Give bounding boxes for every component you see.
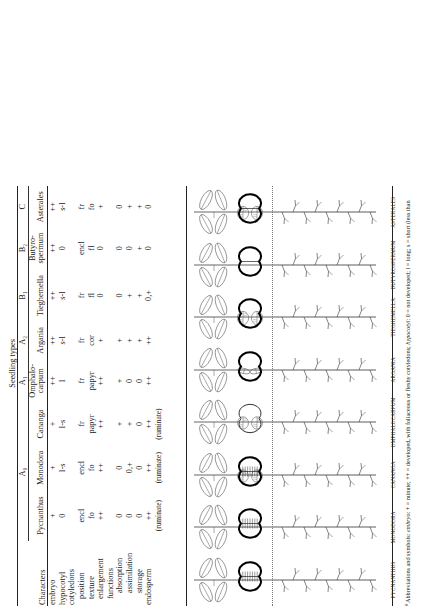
cell-position-cananga: fr xyxy=(77,403,87,445)
cell-ruminate-pycnanthus: (ruminate) xyxy=(154,491,164,541)
cell-enlargement-butyrospermum: 0 xyxy=(96,227,106,268)
plate-caption-tieghemella: TIEGHEMELLA xyxy=(390,291,396,344)
cell-cotyledons-pycnanthus xyxy=(67,491,77,541)
cell-functions-butyrospermum xyxy=(106,227,116,268)
cell-hypocotyl-cananga: l-s xyxy=(58,403,68,445)
genus-asterales: Asterales xyxy=(28,186,47,227)
cell-enlargement-omphalocarpum: ++ xyxy=(96,359,106,404)
cell-ruminate-omphalocarpum xyxy=(154,359,164,404)
cell-embryo-omphalocarpum: ++ xyxy=(47,359,57,404)
seedling-drawing-tieghemella xyxy=(188,291,384,344)
cell-texture-argania: cor xyxy=(86,322,96,358)
cell-position-omphalocarpum: fr xyxy=(77,359,87,404)
character-label-position: position xyxy=(77,541,87,606)
plate-caption-omphalocarpum: OMPHALOCARPUM xyxy=(390,396,396,449)
cell-enlargement-asterales: + xyxy=(96,186,106,227)
seedling-plate: PYCNANTHUS xyxy=(188,554,384,607)
cell-ruminate-butyrospermum xyxy=(154,227,164,268)
cell-endosperm-asterales: 0 xyxy=(144,186,154,227)
cell-functions-tieghemella xyxy=(106,269,116,323)
seedling-drawings-band: PYCNANTHUSMONODORACANANGAOMPHALOCARPUMAR… xyxy=(188,186,396,606)
cell-cotyledons-omphalocarpum xyxy=(67,359,77,404)
plate-caption-pycnanthus: PYCNANTHUS xyxy=(390,554,396,607)
cell-absorption-cananga: + xyxy=(115,403,125,445)
cell-position-tieghemella: fr xyxy=(77,269,87,323)
cell-storage-asterales: + xyxy=(134,186,144,227)
character-row: storage0000++++ xyxy=(134,186,144,606)
genus-omphalocarpum: Omphalo- carpum xyxy=(28,359,47,404)
characters-table-wrapper: Seedling types A₀ A₁ A₂ B₁ B₂ C Characte… xyxy=(8,186,163,606)
character-label-storage: storage xyxy=(134,541,144,606)
cell-embryo-asterales: ++ xyxy=(47,186,57,227)
cell-storage-cananga: 0 xyxy=(134,403,144,445)
plate-band-bottom-rule xyxy=(392,186,393,606)
cell-cotyledons-butyrospermum xyxy=(67,227,77,268)
cell-embryo-pycnanthus: + xyxy=(47,491,57,541)
cell-hypocotyl-asterales: s-l xyxy=(58,186,68,227)
cell-endosperm-tieghemella: 0,+ xyxy=(144,269,154,323)
cell-hypocotyl-omphalocarpum: l xyxy=(58,359,68,404)
cell-functions-asterales xyxy=(106,186,116,227)
character-label-functions: functions xyxy=(106,541,116,606)
character-row: cotyledons xyxy=(67,186,77,606)
cell-storage-monodora: 0 xyxy=(134,445,144,491)
genus-omphalocarpum-line2: carpum xyxy=(36,368,45,393)
character-row: absorption00+++000 xyxy=(115,186,125,606)
cell-endosperm-pycnanthus: ++ xyxy=(144,491,154,541)
cell-cotyledons-asterales xyxy=(67,186,77,227)
seedling-types-header-row: Seedling types xyxy=(8,186,18,606)
plate-caption-monodora: MONODORA xyxy=(390,501,396,554)
genus-monodora: Monodora xyxy=(28,445,47,491)
soil-line xyxy=(272,186,273,606)
character-row: assimilation00,++0++0+ xyxy=(125,186,135,606)
cell-assimilation-pycnanthus: 0 xyxy=(125,491,135,541)
plate-caption-cananga: CANANGA xyxy=(390,449,396,502)
character-label-endosperm: endosperm xyxy=(144,541,154,606)
genus-butyrospermum-line1: Butyro- xyxy=(28,235,37,261)
cell-absorption-argania: + xyxy=(115,322,125,358)
group-code-row: A₀ A₁ A₂ B₁ B₂ C xyxy=(18,186,28,606)
cell-absorption-omphalocarpum: + xyxy=(115,359,125,404)
cell-absorption-monodora: 0 xyxy=(115,445,125,491)
seedling-plate: TIEGHEMELLA xyxy=(188,291,384,344)
character-label-absorption: absorption xyxy=(115,541,125,606)
cell-absorption-tieghemella: 0 xyxy=(115,269,125,323)
cell-assimilation-butyrospermum: 0 xyxy=(125,227,135,268)
plate-caption-argania: ARGANIA xyxy=(390,344,396,397)
character-label-hypocotyl: hypocotyl xyxy=(58,541,68,606)
cell-ruminate-asterales xyxy=(154,186,164,227)
characters-table-body: embryo+++++++++++++hypocotyl0l-sl-sls-ls… xyxy=(47,186,163,606)
cell-ruminate-cananga: (ruminate) xyxy=(154,403,164,445)
seedling-plate: MONODORA xyxy=(188,501,384,554)
character-label-texture: texture xyxy=(86,541,96,606)
seedling-plate: BUTYROSPERMUM xyxy=(188,239,384,292)
character-label xyxy=(154,541,164,606)
seedling-drawing-pycnanthus xyxy=(188,554,384,607)
seedling-types-header: Seedling types xyxy=(8,186,18,541)
cell-functions-pycnanthus xyxy=(106,491,116,541)
genus-pycnanthus: Pycnanthus xyxy=(28,491,47,541)
cell-position-pycnanthus: encl xyxy=(77,491,87,541)
character-label-embryo: embryo xyxy=(47,541,57,606)
rotated-figure-canvas: Seedling types A₀ A₁ A₂ B₁ B₂ C Characte… xyxy=(0,0,427,612)
cell-assimilation-asterales: + xyxy=(125,186,135,227)
cell-storage-butyrospermum: + xyxy=(134,227,144,268)
cell-texture-omphalocarpum: papyr xyxy=(86,359,96,404)
cell-ruminate-tieghemella xyxy=(154,269,164,323)
seedling-drawing-argania xyxy=(188,344,384,397)
seedling-drawing-omphalocarpum xyxy=(188,396,384,449)
genus-butyrospermum: Butyro- spermum xyxy=(28,227,47,268)
cell-storage-pycnanthus: 0 xyxy=(134,491,144,541)
cell-storage-omphalocarpum: 0 xyxy=(134,359,144,404)
genus-tieghemella: Tieghemella xyxy=(28,269,47,323)
cell-cotyledons-cananga xyxy=(67,403,77,445)
seedling-plate: OMPHALOCARPUM xyxy=(188,396,384,449)
cell-embryo-monodora: + xyxy=(47,445,57,491)
cell-hypocotyl-pycnanthus: 0 xyxy=(58,491,68,541)
cell-enlargement-tieghemella: 0 xyxy=(96,269,106,323)
character-row: endosperm++++++++++0,+00 xyxy=(144,186,154,606)
cell-cotyledons-tieghemella xyxy=(67,269,77,323)
character-label-enlargement: enlargement xyxy=(96,541,106,606)
cell-assimilation-omphalocarpum: 0 xyxy=(125,359,135,404)
character-row: texturefofopapyrpapyrcorflflfo xyxy=(86,186,96,606)
